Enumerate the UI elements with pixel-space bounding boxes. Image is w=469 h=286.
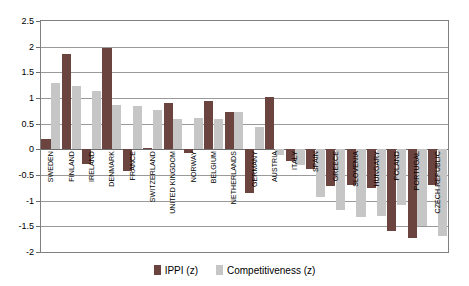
legend-swatch [154, 265, 161, 275]
bar-ippi[interactable] [204, 101, 213, 150]
y-axis-tick-label: -0.5 [18, 171, 34, 180]
y-axis-tick-label: 2 [29, 42, 34, 51]
legend-swatch [216, 265, 223, 275]
bar-group [265, 21, 285, 252]
bar-ippi[interactable] [41, 139, 50, 150]
y-axis: 2.521.510.50-0.5-1-1.5-2 [0, 20, 40, 253]
bar-group [224, 21, 244, 252]
plot-area: SWEDENFINLANDIRELANDDENMARKFRANCESWITZER… [40, 20, 449, 253]
bar-comp[interactable] [153, 110, 162, 149]
bar-group [143, 21, 163, 252]
category-label: NETHERLANDS [230, 151, 237, 204]
category-label: BELGIUM [210, 151, 217, 183]
category-label: IRELAND [88, 151, 95, 182]
bar-comp[interactable] [255, 127, 264, 150]
category-label: POLAND [393, 151, 400, 180]
category-label: FINLAND [68, 151, 75, 182]
bar-group [245, 21, 265, 252]
bar-group [285, 21, 305, 252]
bar-ippi[interactable] [143, 148, 152, 149]
bar-group [204, 21, 224, 252]
bar-group [183, 21, 203, 252]
legend-item: Competitiveness (z) [216, 265, 315, 276]
chart-legend: IPPI (z)Competitiveness (z) [0, 260, 469, 280]
y-axis-tick-label: 2.5 [21, 17, 34, 26]
y-axis-tick-label: 0.5 [21, 119, 34, 128]
bar-comp[interactable] [173, 119, 182, 150]
category-label: SWEDEN [47, 151, 54, 182]
y-axis-tick-label: -1 [26, 196, 34, 205]
bar-ippi[interactable] [62, 54, 71, 149]
category-label: SWITZERLAND [149, 151, 156, 202]
category-label: NORWAY [190, 151, 197, 182]
bar-group [428, 21, 448, 252]
bar-ippi[interactable] [102, 48, 111, 150]
category-label: CZECH REPUBLIC [434, 151, 441, 213]
bar-group [41, 21, 61, 252]
bar-comp[interactable] [92, 91, 101, 150]
chart-root: 2.521.510.50-0.5-1-1.5-2 SWEDENFINLANDIR… [0, 0, 469, 286]
bars-layer [41, 21, 448, 252]
bar-group [163, 21, 183, 252]
bar-group [326, 21, 346, 252]
bar-ippi[interactable] [265, 97, 274, 149]
bar-comp[interactable] [51, 83, 60, 149]
category-label: ITALY [291, 151, 298, 170]
bar-group [407, 21, 427, 252]
bar-group [387, 21, 407, 252]
y-axis-tick-label: -1.5 [18, 222, 34, 231]
y-axis-tick-label: -2 [26, 248, 34, 257]
category-label: HUNGARY [373, 151, 380, 187]
bar-comp[interactable] [234, 112, 243, 149]
legend-label: IPPI (z) [165, 265, 198, 276]
bar-group [367, 21, 387, 252]
legend-label: Competitiveness (z) [227, 265, 315, 276]
bar-comp[interactable] [133, 106, 142, 149]
bar-ippi[interactable] [225, 112, 234, 149]
y-axis-tick-label: 0 [29, 145, 34, 154]
legend-item: IPPI (z) [154, 265, 198, 276]
bar-group [346, 21, 366, 252]
bar-group [82, 21, 102, 252]
category-label: GERMANY [251, 151, 258, 187]
bar-comp[interactable] [214, 119, 223, 150]
category-label: SLOVENIA [352, 151, 359, 187]
bar-group [102, 21, 122, 252]
bar-group [122, 21, 142, 252]
bar-comp[interactable] [112, 105, 121, 149]
category-label: UNITED KINGDOM [169, 151, 176, 214]
bar-ippi[interactable] [164, 103, 173, 149]
bar-comp[interactable] [72, 86, 81, 150]
bar-group [61, 21, 81, 252]
y-axis-tick-label: 1 [29, 94, 34, 103]
bar-group [306, 21, 326, 252]
category-label: FRANCE [129, 151, 136, 180]
category-label: AUSTRIA [271, 151, 278, 182]
category-label: GREECE [332, 151, 339, 181]
category-label: DENMARK [108, 151, 115, 187]
category-label: SPAIN [312, 151, 319, 172]
y-axis-tick-label: 1.5 [21, 68, 34, 77]
category-label: PORTUGAL [413, 151, 420, 190]
bar-comp[interactable] [194, 118, 203, 149]
